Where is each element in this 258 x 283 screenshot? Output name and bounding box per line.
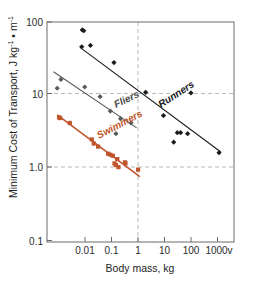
xtick-label-4: 100 bbox=[183, 245, 200, 256]
y-axis-title-mid: • m bbox=[7, 22, 19, 41]
ytick-label-1: 1.0 bbox=[29, 162, 43, 173]
data-point bbox=[88, 43, 93, 48]
data-point bbox=[111, 154, 115, 158]
x-axis-ticks bbox=[85, 237, 218, 242]
data-point bbox=[58, 116, 62, 120]
x-axis-title: Body mass, kg bbox=[106, 262, 175, 274]
data-point bbox=[171, 140, 176, 145]
y-axis-title: Minimum Cost of Transport, J kg-1 • m-1 bbox=[7, 16, 19, 198]
data-point bbox=[116, 165, 120, 169]
xtick-label-1: 0.1 bbox=[105, 245, 119, 256]
xtick-label-5: 1000v bbox=[205, 245, 232, 256]
data-point bbox=[68, 121, 72, 125]
x-tick-labels: 0.01 0.1 1 10 100 1000v bbox=[75, 245, 232, 256]
x-axis-title-text: Body mass, kg bbox=[106, 262, 175, 274]
ytick-label-10: 10 bbox=[32, 89, 44, 100]
plot-frame bbox=[47, 22, 234, 242]
ytick-label-0.1: 0.1 bbox=[29, 236, 43, 247]
data-point bbox=[115, 157, 119, 161]
svg-text:Minimum Cost of Transport, J k: Minimum Cost of Transport, J kg-1 • m-1 bbox=[7, 16, 19, 198]
data-point bbox=[98, 94, 103, 99]
y-axis-title-exp2: -1 bbox=[7, 16, 14, 22]
data-point bbox=[82, 84, 87, 89]
axes-border bbox=[47, 22, 234, 242]
data-point bbox=[161, 113, 166, 118]
data-point bbox=[136, 168, 140, 172]
series-label-swimmers: Swimmers bbox=[95, 107, 145, 140]
xtick-label-2: 1 bbox=[135, 245, 141, 256]
data-point bbox=[185, 131, 190, 136]
data-point bbox=[90, 137, 94, 141]
data-point bbox=[123, 161, 127, 165]
data-point bbox=[92, 141, 96, 145]
series-label-fliers: Fliers bbox=[112, 88, 141, 110]
y-axis-title-lead: Minimum Cost of Transport, J kg bbox=[7, 47, 19, 198]
xtick-label-0: 0.01 bbox=[75, 245, 95, 256]
plot-grid bbox=[47, 22, 234, 242]
y-axis-ticks bbox=[47, 22, 52, 241]
data-point bbox=[143, 90, 148, 95]
xtick-label-3: 10 bbox=[159, 245, 171, 256]
data-point bbox=[96, 144, 100, 148]
cost-of-transport-scatter-plot: 0.01 0.1 1 10 100 1000v 100 10 1.0 0.1 M… bbox=[0, 0, 258, 283]
chart-figure: 0.01 0.1 1 10 100 1000v 100 10 1.0 0.1 M… bbox=[0, 0, 258, 283]
data-point bbox=[216, 150, 221, 155]
ytick-label-100: 100 bbox=[26, 17, 43, 28]
data-point bbox=[111, 60, 116, 65]
data-point bbox=[55, 86, 60, 91]
data-point bbox=[79, 44, 84, 49]
y-tick-labels: 100 10 1.0 0.1 bbox=[26, 17, 43, 247]
data-point bbox=[178, 130, 183, 135]
